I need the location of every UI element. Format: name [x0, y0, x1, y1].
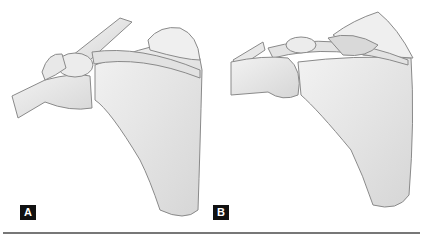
scapula-illustration-a [0, 0, 213, 230]
panel-a: A [0, 0, 213, 230]
panel-label-a: A [20, 205, 36, 220]
panel-b: B [213, 0, 426, 230]
scapula-illustration-b [213, 0, 426, 230]
bottom-rule [3, 232, 420, 234]
panel-label-b: B [213, 205, 229, 220]
